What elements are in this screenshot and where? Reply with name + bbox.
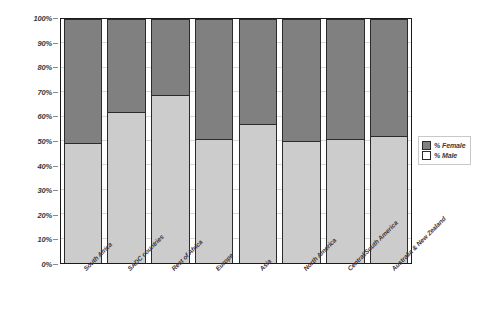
bar-group (239, 19, 278, 263)
bar-group (151, 19, 190, 263)
bar-group (64, 19, 103, 263)
x-axis-labels: South AfricaSADC countriesRest of Africa… (60, 265, 412, 329)
bar-segment-female (282, 19, 321, 141)
y-axis-tick-mark (53, 141, 58, 142)
y-axis-tick-mark (53, 166, 58, 167)
legend-swatch-female-icon (422, 141, 431, 150)
y-axis-tick-label: 40% (38, 161, 52, 170)
bar-segment-male (282, 141, 321, 263)
bar-group (107, 19, 146, 263)
y-axis-tick-mark (53, 215, 58, 216)
bar-segment-male (64, 143, 103, 263)
y-axis-tick-mark (53, 67, 58, 68)
legend-label-male: % Male (434, 152, 457, 159)
bar-group (326, 19, 365, 263)
y-axis-tick-mark (53, 43, 58, 44)
legend-label-female: % Female (434, 142, 466, 149)
bar-segment-female (195, 19, 234, 139)
y-axis: 0%10%20%30%40%50%60%70%80%90%100% (0, 18, 58, 264)
bar-segment-male (239, 124, 278, 263)
bar-segment-female (326, 19, 365, 139)
bar-segment-male (107, 112, 146, 263)
y-axis-tick-label: 50% (38, 137, 52, 146)
y-axis-tick-label: 100% (34, 14, 52, 23)
y-axis-tick-mark (53, 92, 58, 93)
y-axis-tick-label: 20% (38, 210, 52, 219)
legend-item-female: % Female (422, 141, 466, 150)
y-axis-tick-mark (53, 18, 58, 19)
stacked-bar-chart: 0%10%20%30%40%50%60%70%80%90%100% South … (0, 0, 500, 330)
y-axis-tick-mark (53, 264, 58, 265)
y-axis-tick-label: 60% (38, 112, 52, 121)
y-axis-tick-label: 80% (38, 63, 52, 72)
bar-segment-female (107, 19, 146, 112)
bar-group (282, 19, 321, 263)
bar-group (195, 19, 234, 263)
bar-segment-female (64, 19, 103, 143)
y-axis-tick-mark (53, 239, 58, 240)
chart-legend: % Female % Male (418, 136, 471, 165)
legend-item-male: % Male (422, 151, 466, 160)
y-axis-tick-label: 30% (38, 186, 52, 195)
bar-segment-female (239, 19, 278, 124)
y-axis-tick-mark (53, 116, 58, 117)
bar-segment-female (151, 19, 190, 95)
y-axis-tick-label: 0% (42, 260, 52, 269)
y-axis-tick-label: 90% (38, 38, 52, 47)
y-axis-tick-label: 70% (38, 87, 52, 96)
bars-layer (61, 19, 411, 263)
plot-area (60, 18, 412, 264)
y-axis-tick-mark (53, 190, 58, 191)
y-axis-tick-label: 10% (38, 235, 52, 244)
legend-swatch-male-icon (422, 151, 431, 160)
bar-segment-female (370, 19, 409, 136)
